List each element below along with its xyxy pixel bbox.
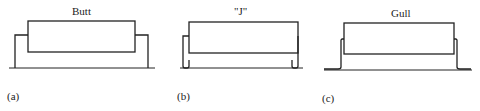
- panel-j-lead: "J" (b): [160, 0, 320, 111]
- panel-title: Butt: [72, 5, 91, 17]
- panel-title: Gull: [391, 7, 411, 19]
- panel-title: "J": [234, 5, 247, 17]
- panel-label: (b): [177, 90, 190, 102]
- panel-label: (c): [322, 92, 334, 104]
- panel-gull-wing: Gull (c): [320, 0, 480, 111]
- panel-butt: Butt (a): [0, 0, 160, 111]
- panel-label: (a): [7, 90, 19, 102]
